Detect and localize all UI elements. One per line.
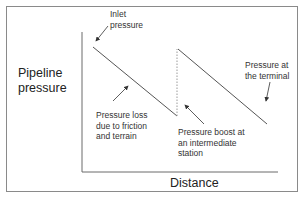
pressure-diagram bbox=[0, 0, 304, 203]
boost-arrow-icon bbox=[185, 105, 204, 124]
boost-label-line2: an intermediate bbox=[178, 138, 245, 149]
inlet-arrow-icon bbox=[96, 26, 108, 41]
terminal-pressure-label: Pressure at the terminal bbox=[245, 60, 289, 81]
loss-arrow-icon bbox=[113, 86, 128, 101]
y-axis-label-line1: Pipeline bbox=[18, 66, 67, 81]
pressure-loss-label: Pressure loss due to friction and terrai… bbox=[96, 110, 148, 142]
boost-label-line3: station bbox=[178, 148, 245, 159]
pressure-boost-label: Pressure boost at an intermediate statio… bbox=[178, 127, 245, 159]
pressure-drop-line-1 bbox=[93, 47, 177, 116]
y-axis-label-line2: pressure bbox=[18, 81, 67, 96]
inlet-label-line2: pressure bbox=[110, 20, 143, 31]
terminal-label-line1: Pressure at bbox=[245, 60, 289, 71]
inlet-pressure-label: Inlet pressure bbox=[110, 9, 143, 30]
terminal-arrow-icon bbox=[266, 82, 270, 101]
loss-label-line3: and terrain bbox=[96, 131, 148, 142]
boost-label-line1: Pressure boost at bbox=[178, 127, 245, 138]
terminal-label-line2: the terminal bbox=[245, 71, 289, 82]
loss-label-line1: Pressure loss bbox=[96, 110, 148, 121]
inlet-label-line1: Inlet bbox=[110, 9, 143, 20]
loss-label-line2: due to friction bbox=[96, 121, 148, 132]
x-axis-label: Distance bbox=[170, 176, 219, 191]
y-axis-label: Pipeline pressure bbox=[18, 66, 67, 96]
